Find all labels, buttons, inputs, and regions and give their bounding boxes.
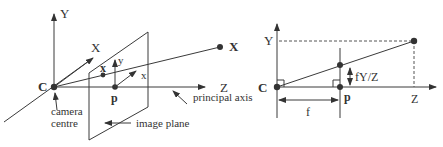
- principal-axis-annotation: principal axis: [193, 91, 253, 103]
- right-y-axis-label: Y: [264, 33, 274, 48]
- camera-centre-label: C: [38, 79, 47, 94]
- left-diagram: Y X Z X C p y x x camera centre image: [4, 6, 253, 140]
- right-diagram: Y Z C p fY/Z f: [258, 24, 436, 119]
- x-axis-label: X: [91, 40, 101, 55]
- principal-axis-pointer: [173, 91, 187, 104]
- world-point-label: X: [229, 39, 239, 54]
- right-world-point-dot: [411, 38, 417, 44]
- right-camera-centre-label: C: [258, 80, 267, 95]
- projection-label: fY/Z: [355, 70, 378, 84]
- camera-centre-annotation-line2: centre: [51, 117, 78, 129]
- image-point-label: x: [100, 61, 106, 75]
- right-principal-point-label: p: [344, 90, 351, 104]
- right-z-axis-label: Z: [411, 92, 418, 106]
- image-x-label: x: [141, 69, 147, 81]
- focal-length-label: f: [306, 105, 310, 119]
- y-axis-label: Y: [60, 6, 70, 21]
- principal-point-label: p: [111, 91, 118, 105]
- right-projection-ray: [277, 41, 414, 87]
- right-principal-point-dot: [337, 84, 343, 90]
- camera-centre-dot: [51, 84, 57, 90]
- camera-centre-annotation-line1: camera: [51, 105, 83, 117]
- image-x-axis: [115, 71, 136, 87]
- world-point-dot: [217, 44, 223, 50]
- right-image-point-dot: [337, 62, 343, 68]
- image-plane-annotation: image plane: [136, 117, 190, 129]
- projection-ray: [54, 47, 220, 87]
- pinhole-camera-figure: Y X Z X C p y x x camera centre image: [0, 0, 443, 147]
- right-camera-centre-dot: [274, 84, 280, 90]
- image-y-label: y: [118, 54, 124, 66]
